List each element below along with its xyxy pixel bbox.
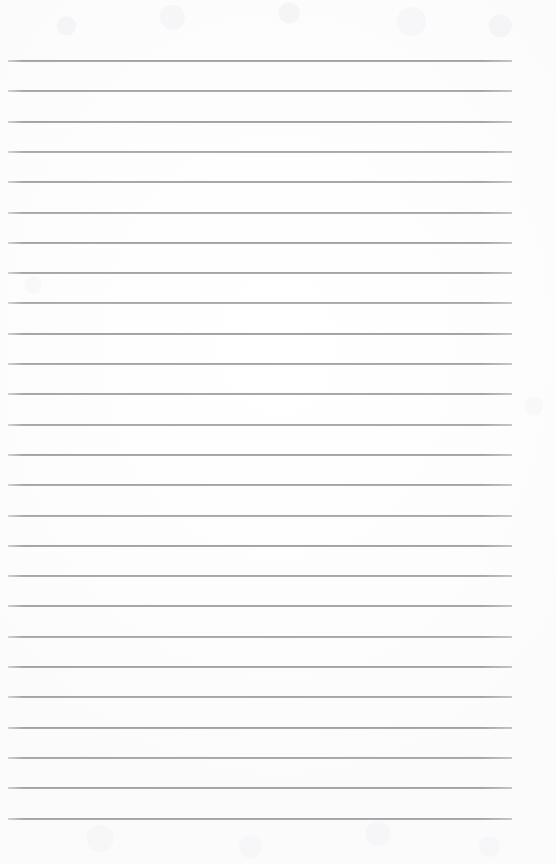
- rule-line: [8, 696, 512, 698]
- rule-line: [8, 787, 512, 789]
- rule-line: [8, 454, 512, 456]
- rule-line: [8, 333, 512, 335]
- rule-line: [8, 363, 512, 365]
- rule-line: [8, 90, 512, 92]
- rule-line: [8, 484, 512, 486]
- rule-line: [8, 605, 512, 607]
- rule-line: [8, 757, 512, 759]
- page-body-text: [8, 60, 512, 61]
- rule-line: [8, 636, 512, 638]
- rule-line: [8, 302, 512, 304]
- rule-line: [8, 515, 512, 517]
- rule-line: [8, 575, 512, 577]
- rule-line: [8, 727, 512, 729]
- rule-line: [8, 545, 512, 547]
- rule-line: [8, 393, 512, 395]
- rule-line: [8, 181, 512, 183]
- scanned-page: [0, 0, 556, 864]
- rule-line: [8, 272, 512, 274]
- rule-line: [8, 666, 512, 668]
- rule-line: [8, 242, 512, 244]
- rule-line: [8, 212, 512, 214]
- rule-line: [8, 151, 512, 153]
- ruling-lines-layer: [0, 0, 556, 864]
- rule-line: [8, 818, 512, 820]
- rule-line: [8, 121, 512, 123]
- rule-line: [8, 424, 512, 426]
